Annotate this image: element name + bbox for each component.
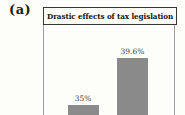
plot-area: 35% 39.6%: [43, 25, 175, 115]
chart-title: Drastic effects of tax legislation: [47, 11, 173, 21]
panel-label: (a): [9, 2, 31, 17]
chart-title-box: Drastic effects of tax legislation: [43, 7, 177, 25]
figure-panel: (a) Drastic effects of tax legislation 3…: [0, 0, 185, 115]
bar-value-label: 35%: [75, 95, 92, 103]
bar: [68, 105, 99, 115]
bar-value-label: 39.6%: [120, 48, 144, 56]
bar: [117, 58, 148, 115]
